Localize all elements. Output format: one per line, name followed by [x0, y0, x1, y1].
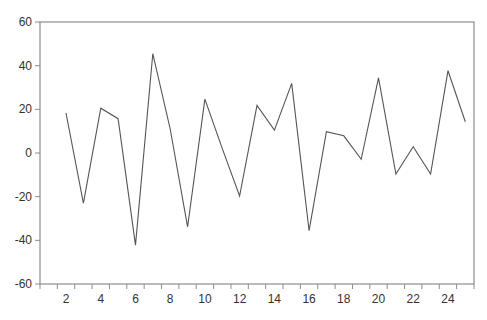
y-tick-label: 0 — [25, 146, 32, 160]
x-axis: 24681012141618202224 — [40, 284, 474, 306]
series-line — [66, 54, 465, 245]
x-tick-label: 14 — [268, 292, 282, 306]
x-tick-label: 10 — [198, 292, 212, 306]
y-axis: -60-40-200204060 — [15, 15, 40, 291]
line-chart: -60-40-200204060 24681012141618202224 — [0, 0, 487, 320]
y-tick-label: 60 — [19, 15, 33, 29]
y-tick-label: 40 — [19, 59, 33, 73]
x-tick-label: 2 — [63, 292, 70, 306]
x-tick-label: 4 — [97, 292, 104, 306]
x-tick-label: 18 — [337, 292, 351, 306]
y-tick-label: -60 — [15, 277, 33, 291]
x-tick-label: 8 — [167, 292, 174, 306]
x-tick-label: 12 — [233, 292, 247, 306]
x-tick-label: 22 — [407, 292, 421, 306]
y-tick-label: -40 — [15, 233, 33, 247]
data-series — [66, 54, 465, 245]
x-tick-label: 6 — [132, 292, 139, 306]
y-tick-label: 20 — [19, 102, 33, 116]
y-tick-label: -20 — [15, 190, 33, 204]
x-tick-label: 16 — [302, 292, 316, 306]
x-tick-label: 20 — [372, 292, 386, 306]
x-tick-label: 24 — [441, 292, 455, 306]
